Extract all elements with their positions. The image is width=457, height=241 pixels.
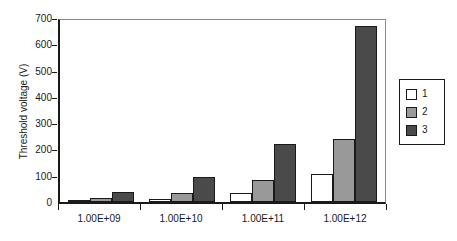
y-tick-mark <box>52 150 57 151</box>
bar-series-1-1.00E+12 <box>311 174 333 202</box>
plot-area <box>58 19 386 204</box>
x-tick-mark <box>58 204 59 210</box>
bar-group <box>141 20 222 202</box>
legend: 123 <box>399 79 445 145</box>
bar-group <box>304 20 385 202</box>
y-tick-label: 600 <box>22 40 52 50</box>
y-tick-label: 0 <box>22 198 52 208</box>
y-tick-mark <box>52 98 57 99</box>
bars-layer <box>60 20 385 202</box>
bar-series-2-1.00E+10 <box>171 193 193 202</box>
bar-chart: Threshold voltage (V) 010020030040050060… <box>0 0 457 241</box>
y-tick-label: 100 <box>22 172 52 182</box>
y-axis-ticks: 0100200300400500600700 <box>22 14 52 210</box>
legend-item-3[interactable]: 3 <box>406 121 444 139</box>
bar-group <box>223 20 304 202</box>
x-tick-mark <box>140 204 141 210</box>
y-tick-label: 200 <box>22 145 52 155</box>
legend-item-2[interactable]: 2 <box>406 103 444 121</box>
legend-label: 1 <box>422 89 428 99</box>
bar-series-2-1.00E+11 <box>252 180 274 202</box>
bar-series-3-1.00E+12 <box>355 26 377 202</box>
bar-series-3-1.00E+10 <box>193 177 215 202</box>
y-tick-mark <box>52 72 57 73</box>
legend-swatch-icon <box>406 125 417 136</box>
x-axis-label: 1.00E+12 <box>304 213 386 224</box>
x-tick-mark <box>222 204 223 210</box>
legend-swatch-icon <box>406 107 417 118</box>
legend-label: 3 <box>422 125 428 135</box>
bar-series-3-1.00E+11 <box>274 144 296 202</box>
x-axis-label: 1.00E+11 <box>222 213 304 224</box>
x-axis-labels: 1.00E+091.00E+101.00E+111.00E+12 <box>58 213 386 224</box>
y-tick-mark <box>52 45 57 46</box>
y-tick-label: 400 <box>22 93 52 103</box>
bar-series-3-1.00E+09 <box>112 192 134 202</box>
bar-series-1-1.00E+10 <box>149 199 171 202</box>
y-tick-mark <box>52 19 57 20</box>
bar-group <box>60 20 141 202</box>
x-tick-mark <box>386 204 387 210</box>
legend-label: 2 <box>422 107 428 117</box>
bar-series-2-1.00E+09 <box>90 198 112 202</box>
legend-item-1[interactable]: 1 <box>406 85 444 103</box>
x-tick-mark <box>304 204 305 210</box>
y-tick-mark <box>52 124 57 125</box>
y-tick-label: 700 <box>22 14 52 24</box>
bar-series-1-1.00E+11 <box>230 193 252 202</box>
legend-swatch-icon <box>406 89 417 100</box>
y-tick-label: 300 <box>22 119 52 129</box>
bar-series-2-1.00E+12 <box>333 139 355 202</box>
y-tick-label: 500 <box>22 67 52 77</box>
bar-series-1-1.00E+09 <box>68 200 90 202</box>
x-axis-label: 1.00E+09 <box>58 213 140 224</box>
x-axis-label: 1.00E+10 <box>140 213 222 224</box>
y-tick-mark <box>52 177 57 178</box>
